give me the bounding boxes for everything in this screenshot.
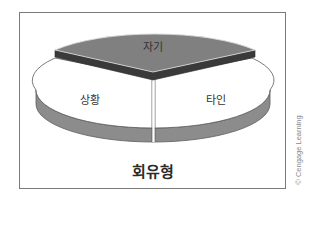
slice-label-other: 타인 [206,91,226,107]
split-gap [152,77,154,142]
slice-label-self: 자기 [143,38,163,54]
copyright-credit: © Cengage Learning [294,115,303,184]
slice-label-situation: 상황 [80,91,100,107]
diagram-title: 회유형 [132,160,174,181]
